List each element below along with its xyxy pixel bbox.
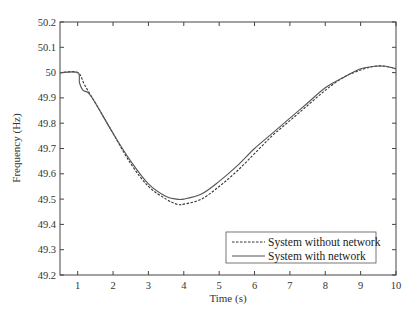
legend-item-with-network: System with network	[268, 250, 366, 263]
x-tick-label: 4	[181, 280, 187, 291]
x-tick-label: 9	[358, 280, 363, 291]
x-tick-label: 8	[323, 280, 328, 291]
legend: System without network System with netwo…	[226, 232, 381, 263]
x-tick-label: 10	[391, 280, 402, 291]
x-tick-label: 3	[146, 280, 151, 291]
y-tick-label: 49.9	[38, 92, 56, 103]
y-tick-label: 50.2	[38, 17, 56, 28]
y-tick-label: 49.7	[38, 143, 56, 154]
y-tick-label: 49.4	[38, 219, 57, 230]
legend-item-without-network: System without network	[268, 236, 381, 249]
y-axis-label: Frequency (Hz)	[10, 113, 23, 183]
x-tick-label: 5	[217, 280, 222, 291]
y-tick-labels: 49.249.349.449.549.649.749.849.95050.150…	[38, 17, 57, 281]
y-tick-label: 49.5	[38, 194, 56, 205]
x-axis-label: Time (s)	[209, 292, 247, 305]
x-tick-label: 2	[110, 280, 115, 291]
x-tick-labels: 12345678910	[75, 280, 401, 291]
x-tick-label: 6	[252, 280, 257, 291]
x-tick-label: 7	[287, 280, 292, 291]
y-tick-label: 49.3	[38, 244, 56, 255]
x-tick-label: 1	[75, 280, 80, 291]
y-tick-label: 49.8	[38, 118, 56, 129]
y-tick-label: 49.6	[38, 168, 56, 179]
chart-svg: 12345678910 49.249.349.449.549.649.749.8…	[0, 0, 419, 316]
y-tick-label: 50	[46, 67, 57, 78]
y-tick-label: 49.2	[38, 270, 56, 281]
y-tick-label: 50.1	[38, 42, 56, 53]
